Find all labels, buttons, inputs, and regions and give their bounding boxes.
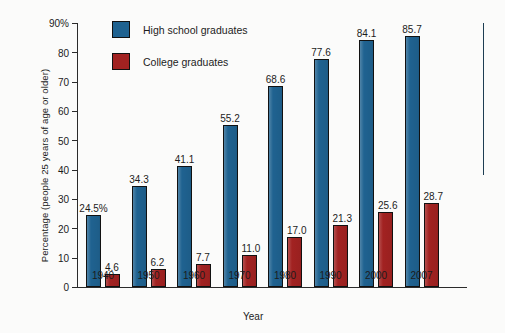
bar-value-label: 28.7 (424, 192, 443, 202)
x-axis-tick-label: 1940 (80, 270, 126, 281)
bar-high-school: 41.1 (177, 166, 192, 287)
x-axis-tick-label: 1960 (171, 270, 217, 281)
legend-swatch-high-school-icon (112, 21, 130, 38)
bar-value-label: 41.1 (175, 155, 194, 165)
bar-high-school: 77.6 (314, 59, 329, 287)
legend-label-college: College graduates (143, 56, 228, 68)
bar-value-label: 24.5% (79, 204, 107, 214)
bar-value-label: 34.3 (129, 175, 148, 185)
y-axis-tick-label: 80 (58, 47, 72, 58)
y-axis-tick-label: 30 (58, 194, 72, 205)
bar-high-school: 84.1 (359, 40, 374, 287)
y-axis-tick-label: 60 (58, 106, 72, 117)
x-axis-tick-label: 1990 (308, 270, 354, 281)
bar-value-label: 84.1 (357, 29, 376, 39)
y-axis-tick-label: 70 (58, 77, 72, 88)
bar-value-label: 17.0 (287, 226, 306, 236)
bar-high-school: 85.7 (405, 36, 420, 287)
y-axis-tick-label: 40 (58, 165, 72, 176)
x-axis-tick-label: 1980 (262, 270, 308, 281)
chart-legend: High school graduates College graduates (112, 21, 247, 85)
y-axis-tick: 50 (72, 140, 77, 141)
y-axis-tick-label: 10 (58, 253, 72, 264)
y-axis-line (77, 23, 78, 288)
x-axis-tick-label: 2000 (353, 270, 399, 281)
x-axis-title: Year (243, 311, 263, 322)
y-axis-tick: 10 (72, 258, 77, 259)
y-axis-tick: 40 (72, 170, 77, 171)
y-axis-tick: 20 (72, 228, 77, 229)
x-axis-tick-label: 1950 (126, 270, 172, 281)
y-axis-tick: 90% (72, 23, 77, 24)
y-axis-tick: 80 (72, 52, 77, 53)
y-axis-tick: 30 (72, 199, 77, 200)
bar-value-label: 85.7 (402, 25, 421, 35)
y-axis-tick-label: 0 (63, 282, 72, 293)
bar-value-label: 7.7 (196, 253, 210, 263)
bar-chart-figure: Percentage (people 25 years of age or ol… (0, 0, 505, 333)
legend-item-college: College graduates (112, 53, 247, 70)
y-axis-tick: 70 (72, 82, 77, 83)
legend-swatch-college-icon (112, 53, 130, 70)
bar-value-label: 77.6 (311, 48, 330, 58)
bar-value-label: 11.0 (242, 244, 261, 254)
legend-item-high-school: High school graduates (112, 21, 247, 38)
bar-value-label: 68.6 (266, 75, 285, 85)
y-axis-tick-label: 20 (58, 223, 72, 234)
y-axis-tick: 60 (72, 111, 77, 112)
x-axis-tick-label: 1970 (217, 270, 263, 281)
y-axis-tick: 0 (72, 287, 77, 288)
bar-value-label: 6.2 (151, 258, 165, 268)
page-edge-rule (483, 23, 484, 175)
y-axis-title: Percentage (people 25 years of age or ol… (39, 51, 50, 281)
bar-high-school: 55.2 (223, 125, 238, 287)
bar-value-label: 21.3 (333, 214, 352, 224)
bar-value-label: 25.6 (378, 201, 397, 211)
x-axis-tick-label: 2007 (399, 270, 445, 281)
bar-value-label: 55.2 (220, 114, 239, 124)
bar-high-school: 68.6 (268, 86, 283, 287)
legend-label-high-school: High school graduates (143, 24, 247, 36)
y-axis-tick-label: 90% (49, 18, 72, 29)
y-axis-tick-label: 50 (58, 135, 72, 146)
